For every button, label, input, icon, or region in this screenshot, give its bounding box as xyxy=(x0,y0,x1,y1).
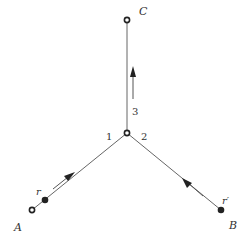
diagram-canvas xyxy=(0,0,250,238)
label-r-prime: r′ xyxy=(222,196,229,206)
edge-2 xyxy=(127,133,221,210)
label-branch-2: 2 xyxy=(141,132,147,142)
node-B-dot xyxy=(218,207,225,214)
arrow-up-right-icon xyxy=(53,172,75,189)
arrow-up-icon xyxy=(130,66,136,99)
label-C: C xyxy=(139,6,147,17)
node-center-open-circle xyxy=(124,130,129,135)
y-junction-diagram: C 3 1 2 r r′ A B xyxy=(0,0,250,238)
node-A-open-circle xyxy=(29,207,34,212)
point-r-dot xyxy=(42,197,49,204)
label-branch-3: 3 xyxy=(132,107,138,117)
node-C-open-circle xyxy=(124,17,129,22)
label-B: B xyxy=(229,220,237,231)
arrow-up-left-icon xyxy=(182,178,203,196)
label-A: A xyxy=(14,222,22,233)
label-branch-1: 1 xyxy=(106,132,112,142)
label-r: r xyxy=(36,187,41,197)
